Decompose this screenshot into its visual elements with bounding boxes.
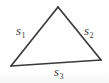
triangle-side-s2-line <box>58 7 101 60</box>
side-label-s3: s3 <box>54 65 64 81</box>
side-label-s3-subscript: 3 <box>60 72 64 81</box>
side-label-s2-subscript: 2 <box>90 31 94 40</box>
side-label-s1-symbol: s <box>16 23 21 38</box>
side-label-s2: s2 <box>84 24 94 40</box>
side-label-s1-subscript: 1 <box>22 31 26 40</box>
side-label-s3-symbol: s <box>54 64 59 79</box>
side-label-s1: s1 <box>16 24 26 40</box>
side-label-s2-symbol: s <box>84 23 89 38</box>
triangle-figure: s1 s2 s3 <box>0 0 109 83</box>
